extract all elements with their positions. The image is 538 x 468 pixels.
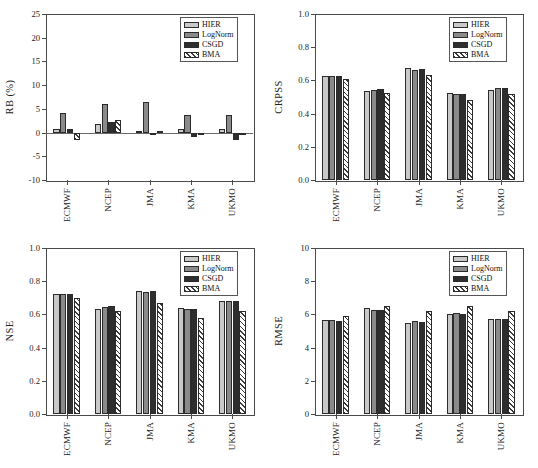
bar-lognorm-ecmwf	[329, 320, 335, 414]
legend-swatch-icon	[184, 42, 199, 48]
bar-lognorm-kma	[453, 94, 459, 180]
x-axis-tick-label: KMA	[186, 188, 196, 210]
y-axis-tick-mark	[311, 14, 315, 15]
x-axis-tick-label: JMA	[145, 422, 155, 441]
x-axis-tick-mark	[191, 414, 192, 419]
bar-csgd-kma	[191, 133, 197, 137]
bar-bma-kma	[198, 133, 204, 135]
y-axis-tick-mark	[42, 109, 46, 110]
bar-bma-ecmwf	[74, 133, 80, 140]
bar-bma-ncep	[115, 311, 121, 414]
x-axis-tick-label: UKMO	[227, 422, 237, 450]
legend-item-csgd: CSGD	[453, 40, 503, 49]
legend-label: CSGD	[202, 275, 223, 283]
bar-hier-kma	[178, 308, 184, 414]
y-axis-tick-mark	[42, 156, 46, 157]
y-axis-tick-label: 0	[279, 409, 309, 419]
x-axis-tick-mark	[377, 180, 378, 185]
bar-bma-ukmo	[239, 311, 245, 414]
bar-csgd-ncep	[108, 306, 114, 414]
y-axis-tick-mark	[42, 414, 46, 415]
bar-lognorm-ukmo	[226, 301, 232, 414]
x-axis-tick-label: UKMO	[227, 188, 237, 216]
legend-label: LogNorm	[471, 31, 503, 39]
bar-lognorm-jma	[143, 102, 149, 132]
y-axis-tick-mark	[311, 414, 315, 415]
bar-hier-kma	[447, 314, 453, 414]
legend-label: LogNorm	[202, 31, 234, 39]
x-axis-tick-mark	[67, 180, 68, 185]
x-axis-tick-mark	[232, 180, 233, 185]
bar-lognorm-ncep	[371, 310, 377, 414]
bar-hier-ecmwf	[322, 76, 328, 180]
legend-swatch-icon	[453, 276, 468, 282]
bar-hier-jma	[136, 131, 142, 133]
bar-bma-kma	[467, 306, 473, 414]
bar-csgd-ncep	[108, 122, 114, 132]
y-axis-tick-mark	[311, 114, 315, 115]
bar-hier-ukmo	[488, 90, 494, 180]
legend-item-hier: HIER	[453, 254, 503, 263]
x-axis-tick-label: NCEP	[372, 422, 382, 446]
y-axis-tick-mark	[311, 314, 315, 315]
x-axis-tick-label: KMA	[455, 422, 465, 444]
y-axis-tick-mark	[311, 381, 315, 382]
y-axis-tick-mark	[311, 281, 315, 282]
legend-item-csgd: CSGD	[453, 274, 503, 283]
bar-bma-ncep	[384, 306, 390, 414]
legend-item-bma: BMA	[453, 284, 503, 293]
x-axis-tick-mark	[336, 414, 337, 419]
legend-label: BMA	[471, 285, 489, 293]
y-axis-title: NSE	[4, 320, 15, 341]
y-axis-tick-mark	[311, 180, 315, 181]
x-axis-tick-mark	[150, 180, 151, 185]
legend-item-lognorm: LogNorm	[453, 30, 503, 39]
y-axis-tick-label: 2	[279, 376, 309, 386]
legend-swatch-icon	[453, 22, 468, 28]
bar-lognorm-kma	[184, 309, 190, 414]
y-axis-tick-mark	[42, 281, 46, 282]
legend-item-lognorm: LogNorm	[453, 264, 503, 273]
legend-swatch-icon	[453, 32, 468, 38]
x-axis-tick-label: NCEP	[372, 188, 382, 212]
legend-swatch-icon	[453, 286, 468, 292]
bar-csgd-kma	[191, 309, 197, 414]
bar-lognorm-ncep	[102, 307, 108, 414]
bar-lognorm-kma	[453, 313, 459, 414]
x-axis-tick-mark	[501, 180, 502, 185]
bar-bma-jma	[157, 303, 163, 414]
bar-lognorm-ukmo	[495, 319, 501, 414]
legend-item-hier: HIER	[184, 20, 234, 29]
bar-hier-jma	[405, 68, 411, 180]
x-axis-tick-mark	[232, 414, 233, 419]
bar-csgd-ncep	[377, 89, 383, 180]
y-axis-tick-mark	[311, 147, 315, 148]
legend-swatch-icon	[184, 276, 199, 282]
x-axis-tick-mark	[460, 414, 461, 419]
legend-label: LogNorm	[471, 265, 503, 273]
bar-lognorm-ecmwf	[60, 113, 66, 133]
y-axis-tick-label: 0.0	[10, 409, 40, 419]
x-axis-tick-label: ECMWF	[62, 422, 72, 456]
bar-csgd-kma	[460, 314, 466, 414]
x-axis-tick-label: JMA	[414, 188, 424, 207]
y-axis-tick-label: -5	[10, 151, 40, 161]
y-axis-tick-label: 25	[10, 9, 40, 19]
y-axis-title: RMSE	[273, 316, 284, 346]
bar-bma-kma	[198, 318, 204, 414]
y-axis-tick-label: 20	[10, 33, 40, 43]
bar-hier-ecmwf	[322, 320, 328, 414]
bar-lognorm-ncep	[371, 90, 377, 180]
chart-legend: HIERLogNormCSGDBMA	[449, 17, 507, 62]
x-axis-tick-mark	[108, 180, 109, 185]
y-axis-tick-mark	[42, 348, 46, 349]
bar-lognorm-ncep	[102, 104, 108, 132]
bar-bma-jma	[426, 311, 432, 414]
bar-bma-ukmo	[239, 133, 245, 135]
legend-item-hier: HIER	[184, 254, 234, 263]
chart-legend: HIERLogNormCSGDBMA	[180, 17, 238, 62]
legend-label: BMA	[202, 285, 220, 293]
bar-csgd-ukmo	[233, 133, 239, 140]
legend-label: CSGD	[471, 41, 492, 49]
chart-panel-nse: 0.00.20.40.60.81.0NSEECMWFNCEPJMAKMAUKMO…	[0, 234, 269, 468]
